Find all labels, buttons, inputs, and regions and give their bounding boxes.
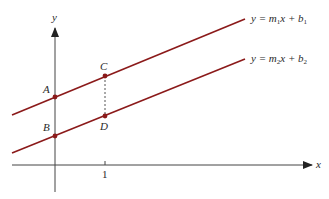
point-c (103, 74, 108, 79)
point-b (53, 134, 58, 139)
eq1-b-sub: 1 (304, 18, 308, 26)
point-a-label: A (42, 83, 50, 95)
point-d (103, 114, 108, 119)
eq2-prefix: y = m (250, 52, 277, 64)
x-axis-label: x (315, 158, 321, 170)
eq2-middle: x + b (279, 52, 304, 64)
point-b-label: B (43, 121, 50, 133)
line-1 (12, 19, 245, 115)
point-a (53, 95, 58, 100)
x-tick-label: 1 (102, 168, 108, 180)
parallel-lines-diagram: x y 1 A B C D y = m1x + b1 y = m2x + b2 (0, 0, 329, 199)
point-c-label: C (100, 60, 108, 72)
eq2-b-sub: 2 (304, 58, 308, 66)
point-d-label: D (99, 120, 108, 132)
line-1-equation: y = m1x + b1 (250, 12, 308, 26)
eq1-prefix: y = m (250, 12, 277, 24)
y-axis-label: y (51, 11, 57, 23)
line-2 (12, 59, 245, 153)
eq1-middle: x + b (279, 12, 304, 24)
line-2-equation: y = m2x + b2 (250, 52, 308, 66)
